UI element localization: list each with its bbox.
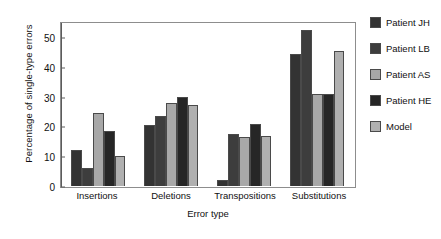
bar bbox=[177, 97, 188, 186]
legend-item: Patient LB bbox=[370, 42, 441, 55]
legend-item: Patient JH bbox=[370, 16, 441, 29]
bar bbox=[217, 180, 228, 186]
y-axis-tick-label: 10 bbox=[44, 152, 61, 163]
bar bbox=[93, 113, 104, 186]
bar-group-bars bbox=[71, 23, 125, 186]
bar bbox=[155, 116, 166, 186]
legend-label: Model bbox=[386, 121, 412, 132]
bar-chart: Percentage of single-type errors 0102030… bbox=[0, 0, 441, 239]
legend-swatch-icon bbox=[370, 121, 381, 132]
x-axis-tick-label: Transpositions bbox=[208, 190, 282, 201]
bar bbox=[144, 125, 155, 186]
bar bbox=[250, 124, 261, 186]
legend-swatch-icon bbox=[370, 69, 381, 80]
legend-label: Patient HE bbox=[386, 95, 431, 106]
bar bbox=[82, 168, 93, 186]
bar-group bbox=[62, 23, 135, 186]
x-axis-tick-labels: InsertionsDeletionsTranspositionsSubstit… bbox=[60, 190, 356, 201]
legend-item: Patient AS bbox=[370, 68, 441, 81]
bar bbox=[228, 134, 239, 186]
bar bbox=[312, 94, 323, 186]
x-axis-tick-label: Insertions bbox=[60, 190, 134, 201]
bar-group-bars bbox=[290, 23, 344, 186]
legend-swatch-icon bbox=[370, 95, 381, 106]
legend-label: Patient LB bbox=[386, 43, 430, 54]
y-axis-tick-label: 50 bbox=[44, 32, 61, 43]
legend-swatch-icon bbox=[370, 43, 381, 54]
plot-area: 01020304050 bbox=[60, 22, 356, 188]
legend-label: Patient JH bbox=[386, 17, 430, 28]
y-axis-tick-label: 20 bbox=[44, 122, 61, 133]
y-axis-title: Percentage of single-type errors bbox=[23, 4, 34, 184]
bar-group-bars bbox=[144, 23, 198, 186]
bar bbox=[290, 54, 301, 186]
bar bbox=[334, 51, 345, 186]
bar bbox=[104, 131, 115, 186]
bar bbox=[323, 94, 334, 186]
y-axis-tick-label: 30 bbox=[44, 92, 61, 103]
bar-group bbox=[135, 23, 208, 186]
x-axis-tick-label: Deletions bbox=[134, 190, 208, 201]
bar bbox=[188, 105, 199, 187]
bar-groups bbox=[62, 23, 354, 186]
bar bbox=[239, 137, 250, 186]
bar bbox=[115, 156, 126, 186]
bar-group-bars bbox=[217, 23, 271, 186]
bar bbox=[261, 136, 272, 186]
bar bbox=[166, 103, 177, 186]
legend: Patient JHPatient LBPatient ASPatient HE… bbox=[370, 16, 441, 146]
bar-group bbox=[281, 23, 354, 186]
bar bbox=[301, 30, 312, 186]
y-axis-tick-mark bbox=[61, 187, 65, 188]
legend-swatch-icon bbox=[370, 17, 381, 28]
legend-item: Model bbox=[370, 120, 441, 133]
x-axis-title: Error type bbox=[60, 208, 356, 219]
bar-group bbox=[208, 23, 281, 186]
legend-item: Patient HE bbox=[370, 94, 441, 107]
bar bbox=[71, 150, 82, 186]
y-axis-tick-label: 40 bbox=[44, 62, 61, 73]
legend-label: Patient AS bbox=[386, 69, 430, 80]
x-axis-tick-label: Substitutions bbox=[282, 190, 356, 201]
